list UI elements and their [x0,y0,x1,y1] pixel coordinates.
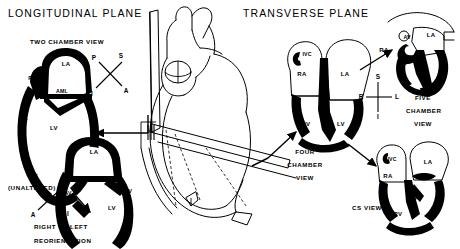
label-cs-view: CS VIEW [352,204,382,211]
label-four: FOUR [295,148,315,155]
label-view-four: VIEW [296,174,314,181]
label-lv-cs: LV [410,195,418,201]
compass-label-i-transverse: I [377,113,379,120]
view-four-chamber: IVC RA LA RV LV FOUR CHAMBER VIEW [287,40,370,181]
label-lv-two-chamber: LV [50,125,58,131]
compass-transverse: S R L I [359,73,399,120]
label-ra-cs: RA [383,173,393,179]
compass-longitudinal-upper: S P A I [91,52,129,97]
compass-label-p-lower: P [66,178,71,185]
title-longitudinal-plane: LONGITUDINAL PLANE [8,7,142,19]
label-five: FIVE [415,94,431,101]
label-av-two-chamber: AV [20,118,28,124]
longitudinal-plane-bar [141,10,177,214]
compass-label-p-upper: P [92,54,97,61]
label-la-two-chamber: LA [62,61,71,67]
compass-label-s-transverse: S [376,73,381,80]
label-la-reoriented: LA [90,149,99,155]
compass-label-s-upper: S [119,52,124,59]
label-cs: CS [420,172,428,178]
label-la-cs: LA [424,159,433,165]
label-av-five-chamber: AV [403,34,411,40]
label-right-to-left: RIGHT TO LEFT [34,223,88,230]
label-view-five: VIEW [414,120,432,127]
label-la-five-chamber: LA [427,32,436,38]
label-ivc-four-chamber: IVC [302,51,311,57]
label-chamber-five: CHAMBER [406,107,441,114]
label-lv-five-chamber: LV [419,70,427,76]
label-aml: AML [56,88,68,94]
compass-label-r-transverse: R [359,93,364,100]
compass-label-l-transverse: L [395,93,399,100]
label-unaltered: (UNALTERED) [8,184,56,191]
arrow-to-cs-view [348,144,376,166]
compass-label-i-lower: I [67,210,69,217]
label-av-reoriented: AV [64,190,72,196]
compass-label-a-lower: A [31,211,36,218]
figure-canvas: LONGITUDINAL PLANE TRANSVERSE PLANE [0,0,460,249]
view-five-chamber: RA AV LA RV LV FIVE CHAMBER VIEW [379,13,454,127]
label-rv-five-chamber: RV [400,60,408,66]
label-ivc-cs: IVC [387,156,396,162]
label-la-four-chamber: LA [341,71,350,77]
transverse-plane-slab [150,124,296,206]
label-rv-cs: RV [394,211,403,217]
view-cs: IVC RA LA CS LV RV CS VIEW [352,142,448,236]
label-lv-four-chamber: LV [337,121,345,127]
compass-label-a-upper: A [124,87,129,94]
arrow-to-four-chamber [268,132,296,158]
label-rv-four-chamber: RV [302,121,311,127]
label-mv-reoriented: MV [124,188,133,194]
label-chamber-four: CHAMBER [287,161,322,168]
label-lv-reoriented: LV [108,205,116,211]
label-pml: PML [28,75,40,81]
title-transverse-plane: TRANSVERSE PLANE [243,7,369,19]
label-two-chamber-view: TWO CHAMBER VIEW [30,38,104,45]
label-ra-five-chamber: RA [379,47,389,53]
diagram-svg: LONGITUDINAL PLANE TRANSVERSE PLANE [0,0,460,249]
label-ra-four-chamber: RA [297,71,307,77]
compass-label-i-upper: I [91,90,93,97]
arrow-to-five-chamber [360,50,392,70]
compass-label-s-lower: S [34,173,39,180]
label-reorientation: REORIENTATION [34,237,91,244]
